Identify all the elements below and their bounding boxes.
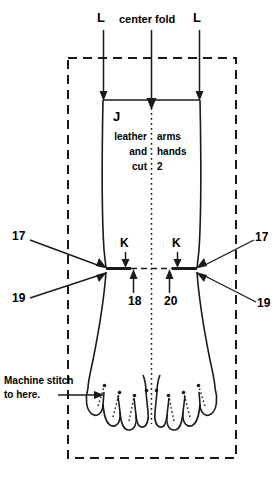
piece-left-column-line-3: cut [96,161,147,173]
callout-19-right-shaft [203,275,256,302]
callout-17-right-shaft [203,240,254,266]
right-hand-finger-3 [167,398,183,430]
right-stitch-dot-2 [182,391,186,395]
callout-label-20: 20 [164,295,177,309]
left-hand-finger-3 [120,398,136,430]
center-fold-label: center fold [119,13,175,26]
callout-19-left-shaft [30,275,100,298]
left-hand-finger-4 [136,392,148,427]
left-stitch-dot-1 [103,384,107,388]
piece-left-column-line-2: and [96,146,147,158]
piece-right-column-line-1: arms [157,131,181,143]
arm-right-edge [197,100,201,268]
right-stitch-dot-4 [155,389,159,393]
fold-label-right: L [193,11,201,26]
machine-stitch-instruction-line-2: to here. [4,388,40,403]
fold-label-left: L [97,11,105,26]
hand-right-outer-edge [197,272,215,388]
k-arrow-left-head [122,259,130,268]
right-hand-finger-4 [155,392,167,427]
piece-left-column-line-1: leather [96,131,147,143]
callout-label-19-left: 19 [12,292,25,306]
piece-right-column-line-3: 2 [157,161,163,173]
piece-letter-J: J [113,110,120,125]
k-arrow-right-head [174,259,182,268]
callout-label-19-right: 19 [257,297,270,311]
machine-stitch-arrow-head [94,391,104,399]
callout-18-head [130,269,138,279]
pattern-diagram-page: L center fold L J leather and cut arms h… [0,0,280,477]
right-hand-finger-1 [199,388,217,415]
machine-stitch-instruction-line-1: Machine stitch [4,374,73,389]
left-stitch-line-3 [129,397,134,421]
arm-left-edge [102,100,106,268]
left-stitch-dot-2 [118,391,122,395]
notch-label-k-left: K [120,237,129,251]
left-stitch-dot-4 [145,389,149,393]
callout-label-17-right: 17 [255,231,268,245]
hand-left-outer-edge [88,272,106,388]
callout-label-17-left: 17 [12,230,25,244]
fold-arrow-center-head [147,98,157,110]
notch-label-k-right: K [172,237,181,251]
callout-label-18: 18 [128,295,141,309]
left-stitch-dot-3 [133,394,137,398]
callout-20-head [166,269,174,279]
piece-right-column-line-2: hands [157,146,186,158]
right-stitch-dot-1 [197,384,201,388]
callout-17-left-shaft [30,240,100,266]
right-stitch-line-3 [169,397,174,421]
pattern-diagram-canvas [0,0,280,477]
right-stitch-dot-3 [167,394,171,398]
